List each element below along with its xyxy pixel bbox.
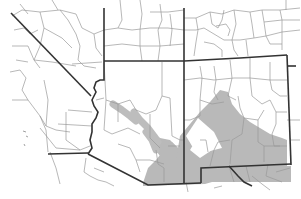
range-map	[0, 0, 301, 199]
islands	[23, 131, 28, 146]
